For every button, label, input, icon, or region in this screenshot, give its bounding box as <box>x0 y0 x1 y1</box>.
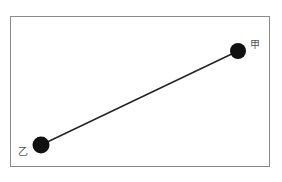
node-jia-label: 甲 <box>250 39 260 50</box>
diagram-canvas: 甲 乙 <box>0 0 282 182</box>
node-yi <box>33 137 50 154</box>
node-yi-label: 乙 <box>18 146 28 157</box>
node-jia <box>230 43 246 59</box>
